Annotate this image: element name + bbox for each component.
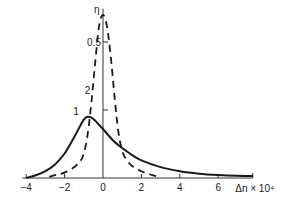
series — [26, 15, 253, 178]
annotations: 12 — [73, 85, 91, 118]
y-ticks: 0.5 — [87, 37, 108, 110]
chart: −4−20246 0.5 12 Δn × 10⁴ η — [0, 0, 284, 201]
x-tick-label: 2 — [139, 182, 145, 193]
x-axis-label: Δn × 10⁴ — [235, 183, 274, 194]
axes — [22, 9, 253, 178]
x-tick-label: −2 — [59, 182, 71, 193]
x-tick-label: −4 — [20, 182, 32, 193]
y-axis-label: η — [94, 4, 100, 15]
y-tick-label: 0.5 — [87, 37, 101, 48]
x-tick-label: 6 — [215, 182, 221, 193]
curve-label-2: 2 — [85, 85, 91, 96]
series-1-line — [26, 117, 253, 178]
curve-label-1: 1 — [73, 106, 79, 117]
x-tick-label: 0 — [100, 182, 106, 193]
x-tick-label: 4 — [177, 182, 183, 193]
